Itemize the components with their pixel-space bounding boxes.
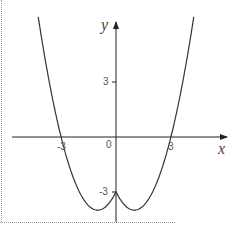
x-tick-label-3: 3: [168, 141, 174, 152]
x-axis-label: x: [218, 140, 225, 158]
chart-canvas: [0, 0, 235, 231]
y-axis-label: y: [101, 16, 108, 34]
x-tick-label-neg3: -3: [57, 141, 66, 152]
y-tick-label-neg3: -3: [99, 186, 108, 197]
y-tick-label-3: 3: [103, 76, 109, 87]
origin-label: 0: [106, 139, 112, 150]
